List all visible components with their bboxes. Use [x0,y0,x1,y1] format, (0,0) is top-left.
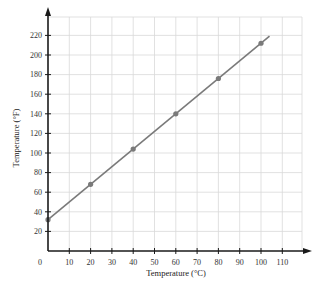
data-point-marker [258,41,263,46]
y-tick-label: 120 [30,129,42,138]
x-tick-label: 40 [129,258,137,267]
x-tick-label: 80 [214,258,222,267]
y-tick-label: 80 [34,168,42,177]
data-point-marker [88,182,93,187]
y-tick-label: 60 [34,188,42,197]
y-axis-arrow-icon [45,7,51,16]
x-axis-label: Temperature (°C) [146,268,206,278]
data-point-marker [173,111,178,116]
y-axis-label: Temperature (°F) [11,108,21,167]
y-tick-label: 140 [30,110,42,119]
x-tick-label: 0 [38,258,42,267]
y-tick-label: 220 [30,31,42,40]
x-tick-label: 30 [108,258,116,267]
y-tick-label: 100 [30,149,42,158]
x-tick-label: 10 [65,258,73,267]
x-tick-label: 110 [276,258,288,267]
x-tick-label: 60 [172,258,180,267]
data-series [45,36,269,222]
x-tick-label: 100 [255,258,267,267]
gridlines [48,17,302,251]
y-tick-label: 20 [34,227,42,236]
data-point-marker [131,146,136,151]
x-tick-label: 50 [151,258,159,267]
y-tick-label: 40 [34,208,42,217]
line-chart: 0102030405060708090100110 20406080100120… [0,0,322,290]
y-tick-label: 160 [30,90,42,99]
x-tick-label: 70 [193,258,201,267]
x-tick-label: 90 [236,258,244,267]
x-tick-label: 20 [87,258,95,267]
y-tick-label: 200 [30,51,42,60]
data-point-marker [216,76,221,81]
x-axis-arrow-icon [303,248,312,254]
y-tick-label: 180 [30,70,42,79]
axes [45,7,312,254]
